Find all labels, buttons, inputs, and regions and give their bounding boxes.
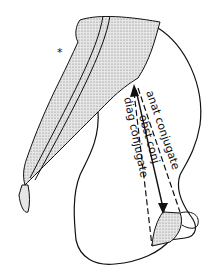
pubic-symphysis: [152, 212, 182, 246]
marker-star: *: [57, 46, 63, 59]
coccyx: [19, 185, 30, 212]
pelvis-diagram: * anat conjugate obst conj diag conjugat…: [0, 0, 214, 271]
